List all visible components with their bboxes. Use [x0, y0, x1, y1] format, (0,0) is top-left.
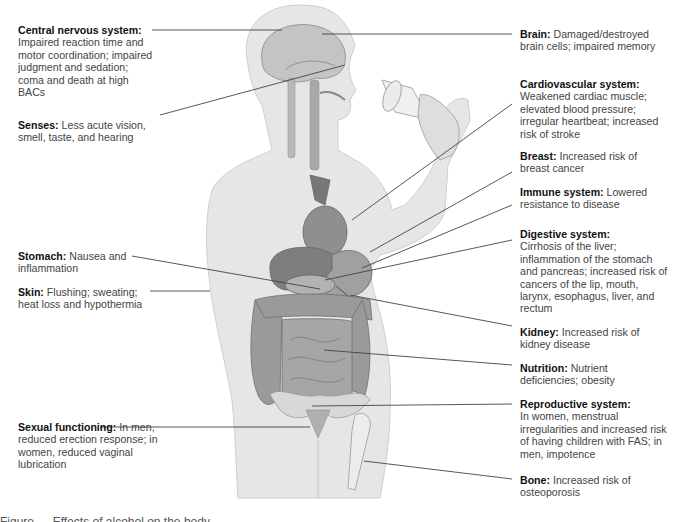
label-digestive-system: Digestive system: Cirrhosis of the liver… [520, 228, 670, 315]
intestines [251, 294, 372, 404]
label-text: Weakened cardiac muscle; elevated blood … [520, 90, 658, 139]
label-title: Skin: [18, 286, 44, 298]
label-title: Sexual functioning: [18, 421, 116, 433]
label-title: Kidney: [520, 326, 559, 338]
label-title: Stomach: [18, 250, 66, 262]
label-senses: Senses: Less acute vision, smell, taste,… [18, 119, 158, 144]
label-stomach: Stomach: Nausea and inflammation [18, 250, 136, 275]
brain [262, 25, 346, 82]
label-title: Bone: [520, 474, 550, 486]
label-title: Cardiovascular system: [520, 78, 640, 90]
label-bone: Bone: Increased risk of osteoporosis [520, 474, 640, 499]
label-title: Breast: [520, 150, 557, 162]
label-title: Nutrition: [520, 362, 568, 374]
label-central-nervous-system: Central nervous system: Impaired reactio… [18, 24, 154, 98]
label-brain: Brain: Damaged/destroyed brain cells; im… [520, 28, 670, 53]
label-sexual-functioning: Sexual functioning: In men, reduced erec… [18, 421, 168, 471]
label-title: Immune system: [520, 186, 604, 198]
label-immune-system: Immune system: Lowered resistance to dis… [520, 186, 655, 211]
label-skin: Skin: Flushing; sweating; heat loss and … [18, 286, 148, 311]
label-kidney: Kidney: Increased risk of kidney disease [520, 326, 648, 351]
label-nutrition: Nutrition: Nutrient deficiencies; obesit… [520, 362, 630, 387]
label-title: Senses: [18, 119, 59, 131]
label-text: Cirrhosis of the liver; inflammation of … [520, 240, 667, 314]
label-title: Central nervous system: [18, 24, 142, 36]
figure-caption-clipped: Figure — Effects of alcohol on the body [0, 514, 210, 522]
label-title: Brain: [520, 28, 551, 40]
label-breast: Breast: Increased risk of breast cancer [520, 150, 648, 175]
label-reproductive-system: Reproductive system: In women, menstrual… [520, 398, 670, 460]
label-text: Impaired reaction time and motor coordin… [18, 36, 152, 98]
label-text: In women, menstrual irregularities and i… [520, 410, 667, 459]
label-title: Digestive system: [520, 228, 610, 240]
hand-with-glass [379, 78, 459, 160]
label-title: Reproductive system: [520, 398, 631, 410]
label-cardiovascular-system: Cardiovascular system: Weakened cardiac … [520, 78, 668, 140]
